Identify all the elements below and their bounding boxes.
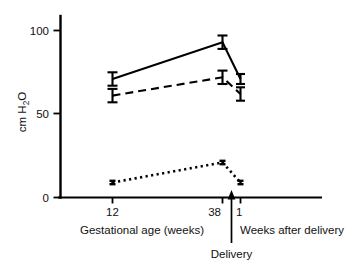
x-axis-title-right: Weeks after delivery — [240, 224, 344, 236]
error-bar-dashed-1 — [236, 87, 245, 100]
y-tick-label-0: 0 — [43, 192, 49, 204]
error-bar-solid-1 — [236, 74, 245, 84]
y-tick-label-100: 100 — [30, 25, 49, 37]
delivery-divider-group — [228, 190, 236, 243]
axes-group — [54, 16, 322, 204]
delivery-label: Delivery — [211, 248, 253, 260]
series-solid — [108, 36, 246, 86]
series-dotted — [110, 161, 244, 184]
y-axis-title: cm H2O — [16, 92, 31, 132]
error-bar-dotted-38 — [220, 161, 226, 164]
series-dashed — [108, 71, 246, 103]
y-axis-title-end: O — [16, 92, 28, 101]
series-dotted-line — [113, 163, 241, 183]
x-tick-label-1: 1 — [236, 206, 242, 218]
x-tick-label-12: 12 — [106, 206, 119, 218]
x-axis-title-left: Gestational age (weeks) — [80, 224, 204, 236]
error-bar-dotted-1 — [238, 181, 244, 184]
chart-figure: 100 50 0 12 38 1 cm H2O Gestational age … — [0, 0, 361, 267]
y-axis-title-main: cm H — [16, 105, 28, 132]
error-bar-solid-38 — [218, 36, 228, 49]
series-solid-line — [113, 42, 241, 79]
svg-text:cm H2O: cm H2O — [16, 92, 31, 132]
error-bar-solid-12 — [108, 72, 118, 85]
x-tick-label-38: 38 — [208, 206, 221, 218]
line-chart-svg: 100 50 0 12 38 1 cm H2O Gestational age … — [0, 0, 361, 267]
y-tick-label-50: 50 — [36, 108, 49, 120]
series-dashed-line — [113, 77, 241, 95]
delivery-arrow-icon — [228, 190, 236, 200]
